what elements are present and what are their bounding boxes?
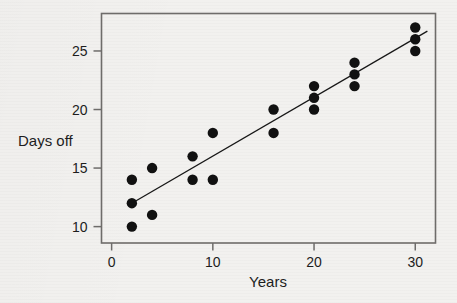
data-point [410, 34, 420, 44]
data-point [127, 198, 137, 208]
data-point [127, 221, 137, 231]
data-point [187, 151, 197, 161]
chart-canvas: 0102030 10152025 Years Days off [0, 0, 457, 303]
scatter-plot-figure: 0102030 10152025 Years Days off [0, 0, 457, 303]
y-axis-title: Days off [18, 132, 74, 149]
data-point [410, 22, 420, 32]
data-points-group [127, 22, 421, 231]
data-point [349, 81, 359, 91]
data-point [349, 69, 359, 79]
data-point [309, 104, 319, 114]
data-point [268, 128, 278, 138]
data-point [410, 46, 420, 56]
data-point [127, 175, 137, 185]
x-tick-label: 20 [306, 254, 322, 270]
regression-line [132, 31, 428, 203]
data-point [268, 104, 278, 114]
plot-frame [102, 14, 436, 244]
y-tick-label: 25 [72, 43, 88, 59]
data-point [208, 128, 218, 138]
y-tick-label: 15 [72, 160, 88, 176]
data-point [147, 210, 157, 220]
y-tick-label: 10 [72, 219, 88, 235]
data-point [309, 81, 319, 91]
x-tick-label: 30 [407, 254, 423, 270]
x-axis-title: Years [249, 273, 287, 290]
x-axis-ticks: 0102030 [108, 243, 424, 270]
x-tick-label: 10 [205, 254, 221, 270]
x-tick-label: 0 [108, 254, 116, 270]
data-point [208, 175, 218, 185]
y-tick-label: 20 [72, 102, 88, 118]
data-point [147, 163, 157, 173]
data-point [309, 93, 319, 103]
y-axis-ticks: 10152025 [72, 43, 102, 235]
data-point [187, 175, 197, 185]
data-point [349, 57, 359, 67]
